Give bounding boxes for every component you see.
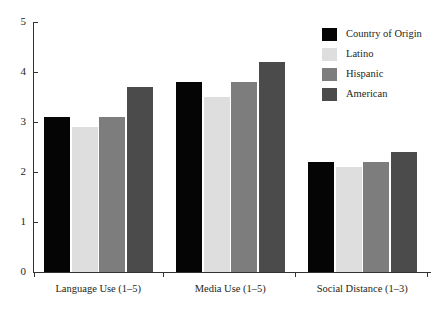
y-axis-tick-label: 4 [0,66,26,77]
legend-swatch-icon [322,68,337,81]
bar [231,82,257,272]
bar [204,97,230,272]
bar [44,117,70,272]
y-axis-tick [33,172,38,173]
y-axis-tick-label: 2 [0,166,26,177]
x-axis-tick [427,272,428,277]
y-axis-tick [33,122,38,123]
y-axis-tick-label: 0 [0,266,26,277]
legend-item-label: Hispanic [346,68,383,80]
bar [127,87,153,272]
legend-item-label: Latino [346,48,373,60]
bar [259,62,285,272]
legend-swatch-icon [322,48,337,61]
bar [308,162,334,272]
y-axis-tick-label: 5 [0,16,26,27]
x-axis-tick [163,272,164,277]
bar [72,127,98,272]
legend-item: Latino [322,45,440,63]
x-axis-line [33,272,431,273]
legend-swatch-icon [322,88,337,101]
y-axis-tick-label: 3 [0,116,26,127]
bar [99,117,125,272]
bar [391,152,417,272]
x-axis-group-label: Media Use (1–5) [160,283,300,295]
y-axis-tick [33,72,38,73]
bar [363,162,389,272]
chart-legend: Country of OriginLatinoHispanicAmerican [322,25,440,105]
bar [336,167,362,272]
x-axis-tick [295,272,296,277]
legend-item: Hispanic [322,65,440,83]
y-axis-tick [33,222,38,223]
legend-swatch-icon [322,28,337,41]
y-axis-line [33,22,34,272]
x-axis-tick [34,272,35,277]
bar-chart: 012345 Language Use (1–5)Media Use (1–5)… [0,0,441,311]
y-axis-tick [33,22,38,23]
legend-item: American [322,85,440,103]
x-axis-group-label: Language Use (1–5) [28,283,168,295]
legend-item-label: American [346,88,387,100]
legend-item: Country of Origin [322,25,440,43]
bar [176,82,202,272]
x-axis-group-label: Social Distance (1–3) [292,283,432,295]
legend-item-label: Country of Origin [346,28,422,40]
y-axis-tick-label: 1 [0,216,26,227]
